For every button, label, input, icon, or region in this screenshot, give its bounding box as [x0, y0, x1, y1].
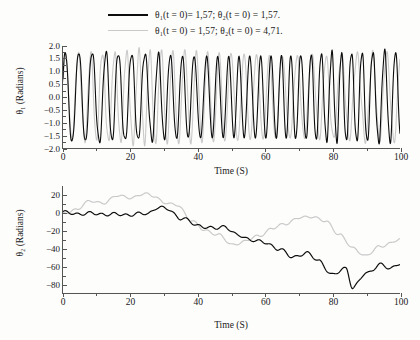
x-tick-label: 100 — [394, 298, 408, 308]
x-tick-label: 40 — [193, 153, 203, 163]
y-tick-label: 0.0 — [49, 93, 63, 102]
x-tick-mark — [164, 293, 165, 296]
legend-swatch-series1 — [108, 14, 148, 16]
y-tick-label: −1.0 — [44, 118, 63, 127]
y-tick-label: 0.5 — [49, 80, 63, 89]
x-tick-label: 0 — [61, 153, 66, 163]
y-tick-mark — [63, 65, 66, 66]
x-tick-mark — [367, 293, 368, 296]
y-tick-mark — [63, 52, 66, 53]
theta2-curves — [63, 186, 400, 293]
x-tick-label: 0 — [61, 298, 66, 308]
x-tick-label: 80 — [329, 298, 339, 308]
chart-panel-theta2: θ₂ (Radians) 200−20−40−60−80020406080100… — [0, 182, 420, 340]
y-tick-mark — [63, 142, 66, 143]
y-tick-mark — [63, 149, 67, 150]
x-tick-mark — [96, 293, 97, 296]
y-tick-mark — [63, 258, 66, 259]
y-tick-mark — [63, 276, 66, 277]
y-tick-mark — [63, 116, 66, 117]
y-tick-mark — [63, 78, 66, 79]
x-tick-label: 20 — [126, 298, 136, 308]
y-tick-label: −1.5 — [44, 131, 63, 140]
y-tick-mark — [63, 222, 66, 223]
y-tick-mark — [63, 71, 67, 72]
plot-area-theta1: 2.01.51.00.50.0−0.5−1.0−1.5−2.0020406080… — [62, 46, 400, 149]
y-tick-mark — [63, 103, 66, 104]
x-tick-label: 80 — [329, 153, 339, 163]
y-tick-mark — [63, 240, 66, 241]
legend-label-series2: θ₁(t = 0) = 1,57; θ₂(t = 0) = 4,71. — [155, 26, 283, 36]
y-tick-mark — [63, 204, 66, 205]
y-tick-label: 1.0 — [49, 67, 63, 76]
chart-panel-theta1: θ₁ (Radians) 2.01.51.00.50.0−0.5−1.0−1.5… — [0, 42, 420, 180]
x-tick-mark — [96, 148, 97, 151]
y-tick-mark — [63, 91, 66, 92]
curve-theta2-series1 — [63, 206, 400, 288]
x-tick-mark — [232, 293, 233, 296]
y-tick-mark — [63, 267, 67, 268]
y-tick-mark — [63, 110, 67, 111]
x-axis-label-top: Time (S) — [62, 166, 400, 176]
x-tick-label: 40 — [193, 298, 203, 308]
x-axis-label-bottom: Time (S) — [62, 320, 400, 330]
y-tick-label: −60 — [46, 262, 63, 271]
curve-theta2-series2 — [63, 193, 400, 255]
y-tick-mark — [63, 123, 67, 124]
theta1-curves — [63, 46, 400, 148]
y-tick-mark — [63, 46, 67, 47]
curve-layer-theta2 — [63, 186, 400, 293]
legend-label-series1: θ₁(t = 0)= 1,57; θ₂(t = 0) = 1,57. — [155, 10, 280, 20]
x-tick-label: 60 — [261, 153, 271, 163]
y-tick-label: 1.5 — [49, 54, 63, 63]
legend-swatch-series2 — [108, 30, 148, 31]
curve-layer-theta1 — [63, 46, 400, 148]
y-tick-label: −40 — [46, 244, 63, 253]
x-tick-mark — [367, 148, 368, 151]
y-tick-mark — [63, 136, 67, 137]
x-tick-mark — [299, 293, 300, 296]
y-tick-mark — [63, 213, 67, 214]
x-tick-label: 100 — [394, 153, 408, 163]
x-tick-mark — [232, 148, 233, 151]
y-tick-mark — [63, 84, 67, 85]
y-tick-label: 2.0 — [49, 41, 63, 50]
y-tick-mark — [63, 58, 67, 59]
x-tick-mark — [164, 148, 165, 151]
y-tick-mark — [63, 249, 67, 250]
legend: θ₁(t = 0)= 1,57; θ₂(t = 0) = 1,57. θ₁(t … — [108, 8, 283, 37]
figure-root: θ₁(t = 0)= 1,57; θ₂(t = 0) = 1,57. θ₁(t … — [0, 0, 420, 340]
y-tick-mark — [63, 231, 67, 232]
y-tick-mark — [63, 129, 66, 130]
y-tick-mark — [63, 285, 67, 286]
x-tick-label: 20 — [126, 153, 136, 163]
legend-entry-series2: θ₁(t = 0) = 1,57; θ₂(t = 0) = 4,71. — [108, 24, 283, 37]
y-tick-mark — [63, 97, 67, 98]
plot-area-theta2: 200−20−40−60−80020406080100 — [62, 186, 400, 294]
x-tick-mark — [299, 148, 300, 151]
y-tick-label: 20 — [51, 190, 63, 199]
y-axis-label-theta2: θ₂ (Radians) — [15, 193, 25, 273]
y-tick-mark — [63, 195, 67, 196]
y-axis-label-theta1: θ₁ (Radians) — [15, 51, 25, 131]
x-tick-label: 60 — [261, 298, 271, 308]
y-tick-label: 0 — [56, 208, 64, 217]
y-tick-label: −20 — [46, 226, 63, 235]
legend-entry-series1: θ₁(t = 0)= 1,57; θ₂(t = 0) = 1,57. — [108, 8, 283, 21]
y-tick-label: −0.5 — [44, 105, 63, 114]
y-tick-label: −80 — [46, 280, 63, 289]
